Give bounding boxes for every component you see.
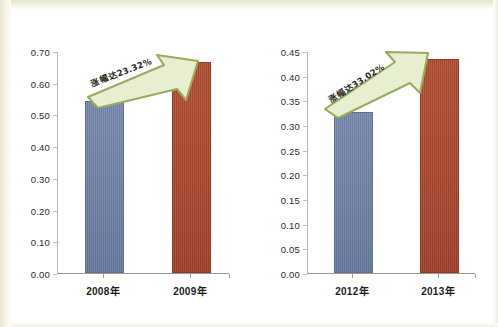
y-axis-tick — [53, 211, 57, 212]
category-label: 2013年 — [421, 283, 455, 298]
y-axis-tick-label: 0.45 — [281, 47, 300, 58]
y-axis-tick — [303, 274, 307, 275]
y-axis-tick — [303, 249, 307, 250]
y-axis-tick — [53, 147, 57, 148]
y-axis-tick-label: 0.10 — [31, 237, 50, 248]
y-axis-tick-label: 0.25 — [281, 145, 300, 156]
y-axis-tick — [303, 101, 307, 102]
y-axis-tick — [53, 179, 57, 180]
y-axis-tick-label: 0.10 — [281, 219, 300, 230]
y-axis-tick — [53, 274, 57, 275]
y-axis-tick-label: 0.00 — [281, 269, 300, 280]
y-axis-tick — [303, 225, 307, 226]
x-axis-line-left — [57, 273, 229, 274]
x-axis-line-right — [307, 273, 475, 274]
x-axis-tick — [103, 274, 104, 278]
bar-2009年 — [172, 62, 211, 273]
scanned-page: 0.000.100.200.300.400.500.600.70 2008年20… — [0, 0, 498, 327]
bar-chart-left: 0.000.100.200.300.400.500.600.70 2008年20… — [0, 0, 249, 327]
y-axis-tick-label: 0.00 — [31, 269, 50, 280]
y-axis-tick-label: 0.20 — [281, 170, 300, 181]
y-axis-tick-label: 0.70 — [31, 47, 50, 58]
y-axis-tick — [53, 115, 57, 116]
y-axis-tick-label: 0.35 — [281, 96, 300, 107]
y-axis-tick — [53, 84, 57, 85]
y-axis-tick — [303, 77, 307, 78]
y-axis-tick-label: 0.50 — [31, 110, 50, 121]
y-axis-tick-label: 0.20 — [31, 205, 50, 216]
bar-2008年 — [85, 101, 124, 273]
x-axis-end-tick — [229, 274, 230, 278]
plot-area-left: 0.000.100.200.300.400.500.600.70 — [57, 52, 229, 274]
y-axis-tick-label: 0.05 — [281, 244, 300, 255]
y-axis-tick-label: 0.40 — [31, 142, 50, 153]
y-axis-tick — [303, 126, 307, 127]
bar-chart-right: 0.000.050.100.150.200.250.300.350.400.45… — [249, 0, 498, 327]
x-axis-tick — [438, 274, 439, 278]
charts-row: 0.000.100.200.300.400.500.600.70 2008年20… — [0, 0, 498, 327]
y-axis-tick-label: 0.15 — [281, 195, 300, 206]
x-axis-tick — [352, 274, 353, 278]
plot-area-right: 0.000.050.100.150.200.250.300.350.400.45 — [307, 52, 475, 274]
y-axis-line-left — [57, 52, 58, 274]
category-label: 2008年 — [86, 283, 120, 298]
x-axis-tick — [190, 274, 191, 278]
y-axis-line-right — [307, 52, 308, 274]
y-axis-tick — [303, 175, 307, 176]
category-label: 2012年 — [335, 283, 369, 298]
bar-2013年 — [420, 59, 459, 273]
x-axis-end-tick — [475, 274, 476, 278]
y-axis-tick-label: 0.30 — [281, 121, 300, 132]
y-axis-tick — [303, 52, 307, 53]
bar-2012年 — [334, 112, 373, 273]
category-label: 2009年 — [173, 283, 207, 298]
y-axis-tick-label: 0.40 — [281, 71, 300, 82]
y-axis-tick — [53, 52, 57, 53]
y-axis-tick — [53, 242, 57, 243]
y-axis-tick — [303, 200, 307, 201]
y-axis-tick — [303, 151, 307, 152]
y-axis-tick-label: 0.30 — [31, 173, 50, 184]
y-axis-tick-label: 0.60 — [31, 78, 50, 89]
